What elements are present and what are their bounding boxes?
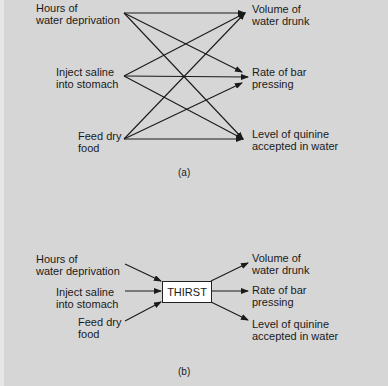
label-line: Rate of bar (252, 284, 306, 296)
label-line: accepted in water (252, 140, 338, 152)
label-line: Rate of bar (252, 66, 306, 78)
label-line: Hours of (36, 253, 120, 265)
output-bar-pressing: Rate of bar pressing (252, 66, 306, 90)
input-inject-saline: Inject saline into stomach (56, 66, 118, 90)
label-line: food (78, 328, 121, 340)
label-line: water drunk (252, 15, 309, 27)
label-line: Volume of (252, 252, 309, 264)
label-line: Inject saline (56, 66, 118, 78)
label-line: Hours of (36, 2, 120, 14)
label-line: Feed dry (78, 316, 121, 328)
output-quinine-level: Level of quinine accepted in water (252, 128, 338, 152)
output-volume-drunk: Volume of water drunk (252, 3, 309, 27)
label-line: Level of quinine (252, 128, 338, 140)
label-line: Volume of (252, 3, 309, 15)
thirst-box: THIRST (162, 281, 212, 303)
input-feed-dry-food: Feed dry food (78, 130, 121, 154)
label-line: pressing (252, 296, 306, 308)
label-line: into stomach (56, 78, 118, 90)
label-line: water deprivation (36, 14, 120, 26)
label-line: Level of quinine (252, 318, 338, 330)
label-line: water drunk (252, 264, 309, 276)
input-inject-saline-b: Inject saline into stomach (56, 286, 118, 310)
label-line: into stomach (56, 298, 118, 310)
input-feed-dry-food-b: Feed dry food (78, 316, 121, 340)
label-line: Feed dry (78, 130, 121, 142)
label-line: accepted in water (252, 330, 338, 342)
output-volume-drunk-b: Volume of water drunk (252, 252, 309, 276)
caption-a: (a) (178, 167, 190, 179)
caption-b: (b) (178, 366, 190, 378)
panel-a-direct-links: Hours of water deprivation Inject saline… (0, 0, 388, 190)
input-hours-deprivation-b: Hours of water deprivation (36, 253, 120, 277)
input-hours-deprivation: Hours of water deprivation (36, 2, 120, 26)
label-line: food (78, 142, 121, 154)
label-line: pressing (252, 78, 306, 90)
label-line: water deprivation (36, 265, 120, 277)
output-quinine-level-b: Level of quinine accepted in water (252, 318, 338, 342)
output-bar-pressing-b: Rate of bar pressing (252, 284, 306, 308)
label-line: Inject saline (56, 286, 118, 298)
